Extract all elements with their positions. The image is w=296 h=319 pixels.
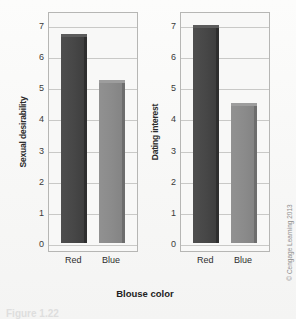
y-axis-tick-right: 2 bbox=[171, 177, 176, 186]
figure-container: Sexual desirability 01234567 RedBlue Dat… bbox=[0, 0, 296, 319]
bar-red-right bbox=[193, 25, 219, 243]
x-axis-category-labels-left: RedBlue bbox=[48, 255, 138, 271]
x-tick-label-red-right: Red bbox=[197, 255, 214, 265]
chart-panel-dating-interest: Dating interest 01234567 RedBlue bbox=[150, 12, 272, 270]
y-axis-tick-left: 7 bbox=[39, 22, 44, 31]
bar-blue-left bbox=[99, 80, 125, 244]
y-axis-tick-left: 2 bbox=[39, 177, 44, 186]
chart-panel-sexual-desirability: Sexual desirability 01234567 RedBlue bbox=[18, 12, 140, 270]
y-axis-tick-left: 3 bbox=[39, 146, 44, 155]
copyright-credit: © Cengage Learning 2013 bbox=[283, 196, 295, 288]
y-axis-label-right: Dating interest bbox=[148, 12, 162, 252]
bar-body bbox=[231, 106, 254, 243]
y-axis-tick-right: 1 bbox=[171, 208, 176, 217]
figure-caption: Figure 1.22 bbox=[6, 308, 59, 319]
x-axis-category-labels-right: RedBlue bbox=[180, 255, 270, 271]
bar-side-shade bbox=[254, 103, 257, 243]
y-axis-tick-right: 0 bbox=[171, 240, 176, 249]
plot-area-right bbox=[180, 12, 270, 252]
y-axis-tick-right: 3 bbox=[171, 146, 176, 155]
x-tick-label-blue-right: Blue bbox=[234, 255, 252, 265]
plot-area-left bbox=[48, 12, 138, 252]
bar-side-shade bbox=[216, 25, 219, 243]
bar-body bbox=[99, 83, 122, 244]
bar-top-cap bbox=[99, 80, 125, 83]
bar-side-shade bbox=[122, 80, 125, 244]
y-axis-tick-left: 4 bbox=[39, 115, 44, 124]
y-axis-tick-left: 5 bbox=[39, 84, 44, 93]
y-axis-tick-right: 4 bbox=[171, 115, 176, 124]
x-tick-label-red-left: Red bbox=[65, 255, 82, 265]
copyright-credit-text: © Cengage Learning 2013 bbox=[286, 204, 293, 280]
y-axis-tick-right: 7 bbox=[171, 22, 176, 31]
bar-top-cap bbox=[61, 34, 87, 37]
bar-top-cap bbox=[231, 103, 257, 106]
y-axis-ticks-left: 01234567 bbox=[30, 12, 46, 252]
gridline bbox=[181, 245, 269, 246]
bar-red-left bbox=[61, 34, 87, 243]
y-axis-label-right-text: Dating interest bbox=[150, 104, 160, 161]
y-axis-tick-right: 5 bbox=[171, 84, 176, 93]
y-axis-tick-right: 6 bbox=[171, 53, 176, 62]
y-axis-tick-left: 1 bbox=[39, 208, 44, 217]
bar-body bbox=[61, 37, 84, 243]
gridline bbox=[49, 27, 137, 28]
bar-side-shade bbox=[84, 34, 87, 243]
y-axis-ticks-right: 01234567 bbox=[162, 12, 178, 252]
gridline bbox=[49, 245, 137, 246]
y-axis-label-left-text: Sexual desirability bbox=[18, 97, 28, 168]
bar-blue-right bbox=[231, 103, 257, 243]
x-tick-label-blue-left: Blue bbox=[102, 255, 120, 265]
bar-top-cap bbox=[193, 25, 219, 28]
y-axis-tick-left: 0 bbox=[39, 240, 44, 249]
y-axis-tick-left: 6 bbox=[39, 53, 44, 62]
bar-body bbox=[193, 28, 216, 243]
y-axis-label-left: Sexual desirability bbox=[16, 12, 30, 252]
x-axis-label: Blouse color bbox=[18, 288, 272, 299]
